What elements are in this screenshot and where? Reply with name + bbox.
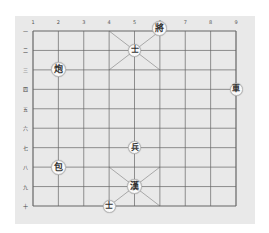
board-grid bbox=[0, 0, 269, 233]
row-label: 六 bbox=[21, 125, 29, 131]
row-label: 九 bbox=[21, 184, 29, 190]
column-label: 4 bbox=[104, 19, 114, 25]
row-label: 八 bbox=[21, 164, 29, 170]
column-label: 5 bbox=[130, 19, 140, 25]
row-label: 二 bbox=[21, 47, 29, 53]
column-label: 3 bbox=[79, 19, 89, 25]
piece-chariot[interactable]: 車 bbox=[230, 83, 243, 96]
piece-cannon[interactable]: 包 bbox=[51, 160, 66, 175]
row-label: 一 bbox=[21, 28, 29, 34]
piece-advisor[interactable]: 士 bbox=[103, 200, 116, 213]
column-label: 8 bbox=[206, 19, 216, 25]
column-label: 2 bbox=[53, 19, 63, 25]
row-label: 五 bbox=[21, 106, 29, 112]
piece-general[interactable]: 將 bbox=[152, 21, 167, 36]
column-label: 7 bbox=[180, 19, 190, 25]
piece-advisor[interactable]: 士 bbox=[128, 44, 141, 57]
piece-king[interactable]: 漢 bbox=[127, 179, 142, 194]
row-label: 七 bbox=[21, 145, 29, 151]
row-label: 四 bbox=[21, 86, 29, 92]
column-label: 1 bbox=[28, 19, 38, 25]
column-label: 9 bbox=[231, 19, 241, 25]
row-label: 三 bbox=[21, 67, 29, 73]
row-label: 十 bbox=[21, 203, 29, 209]
